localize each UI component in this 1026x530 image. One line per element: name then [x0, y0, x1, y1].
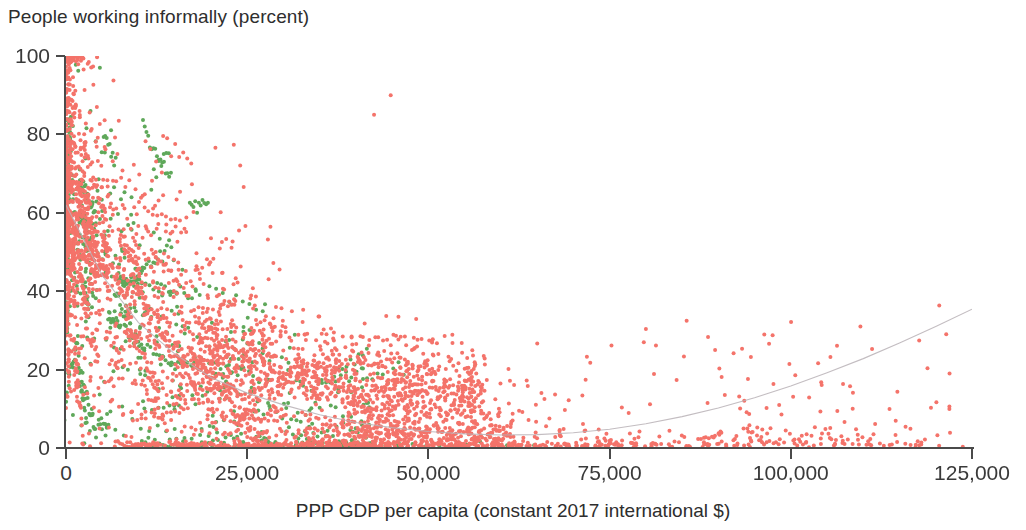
y-tick-label: 100 — [2, 45, 50, 66]
y-tick-label-wrap: 100 — [0, 45, 50, 67]
y-tick-mark — [56, 447, 65, 449]
y-tick-mark — [56, 369, 65, 371]
y-tick-label: 40 — [2, 280, 50, 301]
x-tick-label: 25,000 — [177, 462, 317, 483]
y-tick-label-wrap: 0 — [0, 437, 50, 459]
x-tick-label: 75,000 — [540, 462, 680, 483]
y-tick-label-wrap: 80 — [0, 123, 50, 145]
y-tick-mark — [56, 133, 65, 135]
y-tick-label: 80 — [2, 123, 50, 144]
scatter-chart-figure: People working informally (percent) 0204… — [0, 0, 1026, 530]
x-tick-mark — [246, 449, 248, 459]
x-tick-label: 100,000 — [721, 462, 861, 483]
scatter-plot-canvas — [66, 56, 972, 448]
x-tick-mark — [790, 449, 792, 459]
y-tick-mark — [56, 212, 65, 214]
y-tick-label-wrap: 20 — [0, 359, 50, 381]
y-tick-mark — [56, 290, 65, 292]
y-tick-mark — [56, 55, 65, 57]
x-tick-mark — [65, 449, 67, 459]
y-tick-label-wrap: 60 — [0, 202, 50, 224]
x-tick-mark — [971, 449, 973, 459]
x-axis-title: PPP GDP per capita (constant 2017 intern… — [0, 500, 1026, 522]
y-tick-label-wrap: 40 — [0, 280, 50, 302]
y-tick-label: 0 — [2, 437, 50, 458]
y-axis-line — [64, 56, 66, 449]
x-tick-label: 0 — [0, 462, 136, 483]
chart-title: People working informally (percent) — [8, 6, 309, 28]
x-tick-mark — [609, 449, 611, 459]
x-axis-line — [64, 447, 974, 449]
x-tick-label: 50,000 — [358, 462, 498, 483]
x-tick-label: 125,000 — [902, 462, 1026, 483]
x-tick-mark — [427, 449, 429, 459]
y-tick-label: 20 — [2, 359, 50, 380]
y-tick-label: 60 — [2, 202, 50, 223]
plot-area — [66, 56, 972, 448]
